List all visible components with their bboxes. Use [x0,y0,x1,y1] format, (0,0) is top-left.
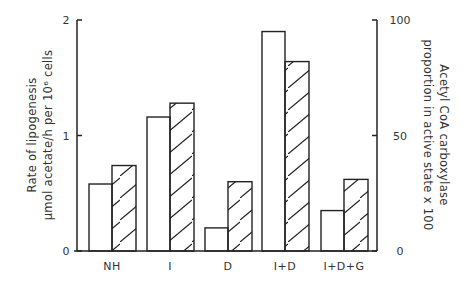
category-label: NH [103,260,121,273]
left-axis-subtitle: μmol acetate/h per 10⁶ cells [41,50,55,221]
right-ticks: 050100 [372,14,411,258]
bar-open [262,32,285,251]
bar-hatched [170,103,194,251]
bar-open [205,228,228,251]
category-label: D [224,260,233,273]
left-ticks: 012 [63,14,83,258]
bar-open [89,184,112,251]
bar-hatched [344,179,368,251]
bar-open [321,211,344,251]
left-axis-title: Rate of lipogenesis [25,77,39,192]
left-tick-label: 1 [63,130,70,143]
right-axis-title: Acetyl CoA carboxylase [437,64,451,205]
right-tick-label: 50 [393,130,407,143]
bar-chart: 012 050100 NHIDI+DI+D+G Rate of lipogene… [0,0,469,289]
category-labels: NHIDI+DI+D+G [103,260,364,273]
category-label: I+D+G [323,260,364,273]
bar-hatched [228,182,252,251]
right-tick-label: 0 [397,245,404,258]
bars-group [89,32,368,251]
right-tick-label: 100 [390,14,411,27]
right-axis-subtitle: proportion in active state x 100 [421,39,435,230]
left-tick-label: 2 [63,14,70,27]
bar-hatched [285,62,309,251]
bar-open [147,117,170,251]
bar-hatched [112,166,136,251]
left-tick-label: 0 [63,245,70,258]
category-label: I [168,260,172,273]
category-label: I+D [274,260,296,273]
